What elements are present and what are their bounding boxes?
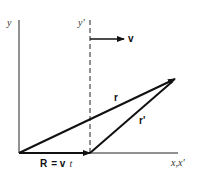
- velocity-label: v: [128, 33, 134, 44]
- r-prime-vector: [90, 81, 173, 153]
- r-prime-label: r': [139, 115, 145, 126]
- r-label: r: [114, 92, 118, 103]
- y-prime-axis-label: y': [77, 17, 85, 28]
- x-axis-label: x,x': [170, 157, 185, 168]
- y-axis-label: y: [6, 17, 12, 28]
- galilean-transformation-diagram: y y' x,x' v r r' R = v t: [0, 0, 199, 178]
- r-vector: [19, 79, 175, 153]
- R-equation: R = v t: [40, 153, 72, 170]
